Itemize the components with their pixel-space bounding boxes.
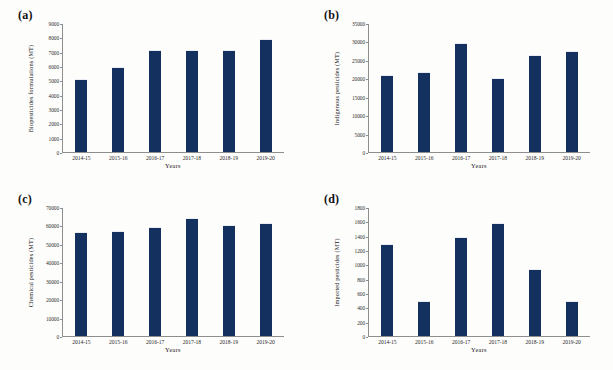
bar <box>566 301 578 336</box>
x-tick-label: 2016-17 <box>443 155 480 161</box>
y-tick-mark <box>366 79 368 80</box>
x-tick-label: 2019-20 <box>553 155 590 161</box>
bar <box>223 225 235 336</box>
bar <box>112 67 124 152</box>
y-tick-label: 10000 <box>46 316 59 322</box>
y-tick-label: 1000 <box>49 136 59 142</box>
panel-b: (b) Indigenous pesticides (MT) 050001000… <box>306 0 612 185</box>
bar <box>418 301 430 336</box>
y-tick-mark <box>366 251 368 252</box>
bars-d <box>369 208 590 336</box>
bar-slot <box>406 24 443 152</box>
y-tick-mark <box>366 294 368 295</box>
y-tick-mark <box>60 81 62 82</box>
figure-multipanel-bar-charts: (a) Biopesticides formulations (MT) 0100… <box>0 0 613 370</box>
x-tick-label: 2019-20 <box>247 339 284 345</box>
bar-slot <box>406 208 443 336</box>
y-axis-label-d: Imported pesticides (MT) <box>330 208 342 337</box>
y-tick-mark <box>60 319 62 320</box>
bar <box>381 244 393 336</box>
bar <box>492 223 504 336</box>
y-axis-label-c: Chemical pesticides (MT) <box>24 208 36 337</box>
y-tick-label: 50000 <box>46 242 59 248</box>
bar <box>75 232 87 336</box>
y-tick-label: 400 <box>357 305 365 311</box>
bar <box>186 218 198 336</box>
x-axis-label-b: Years <box>368 162 590 169</box>
bars-b <box>369 24 590 152</box>
y-tick-mark <box>60 124 62 125</box>
y-tick-label: 4000 <box>49 93 59 99</box>
y-tick-label: 3000 <box>49 107 59 113</box>
x-axis-line-a <box>62 152 284 153</box>
y-tick-label: 1000 <box>355 262 365 268</box>
y-tick-label: 20000 <box>352 76 365 82</box>
y-tick-mark <box>60 300 62 301</box>
y-tick-mark <box>60 208 62 209</box>
x-tick-label: 2014-15 <box>63 155 100 161</box>
y-tick-label: 15000 <box>352 95 365 101</box>
bar <box>260 223 272 336</box>
panel-tag-b: (b) <box>324 8 339 23</box>
y-tick-mark <box>60 53 62 54</box>
y-tick-label: 30000 <box>352 39 365 45</box>
x-axis-line-c <box>62 336 284 337</box>
bar-slot <box>173 208 210 336</box>
x-tick-label: 2018-19 <box>210 155 247 161</box>
bar <box>75 79 87 152</box>
x-tick-label: 2017-18 <box>479 339 516 345</box>
y-tick-label: 10000 <box>352 113 365 119</box>
bar-slot <box>137 208 174 336</box>
bar-slot <box>369 24 406 152</box>
bar-slot <box>63 208 100 336</box>
x-axis-line-b <box>368 152 590 153</box>
y-tick-mark <box>60 139 62 140</box>
y-tick-label: 7000 <box>49 50 59 56</box>
x-ticks-c: 2014-152015-162016-172017-182018-192019-… <box>63 339 284 345</box>
y-tick-mark <box>366 153 368 154</box>
x-tick-label: 2018-19 <box>516 339 553 345</box>
bar-slot <box>100 24 137 152</box>
y-tick-mark <box>60 245 62 246</box>
x-axis-label-c: Years <box>62 346 284 353</box>
bar-slot <box>137 24 174 152</box>
y-tick-mark <box>366 98 368 99</box>
y-tick-label: 20000 <box>46 297 59 303</box>
y-tick-label: 5000 <box>49 78 59 84</box>
y-tick-mark <box>366 24 368 25</box>
y-tick-mark <box>366 42 368 43</box>
bar <box>455 237 467 336</box>
plot-area-a: 0100020003000400050006000700080009000 20… <box>62 24 284 153</box>
bar <box>186 50 198 152</box>
x-tick-label: 2019-20 <box>247 155 284 161</box>
bar <box>455 43 467 152</box>
x-tick-label: 2017-18 <box>173 339 210 345</box>
y-tick-mark <box>366 61 368 62</box>
bar-slot <box>443 24 480 152</box>
x-tick-label: 2018-19 <box>210 339 247 345</box>
y-tick-mark <box>366 208 368 209</box>
y-tick-label: 1200 <box>355 248 365 254</box>
x-tick-label: 2014-15 <box>369 339 406 345</box>
y-tick-mark <box>60 67 62 68</box>
x-tick-label: 2017-18 <box>479 155 516 161</box>
x-tick-label: 2015-16 <box>406 155 443 161</box>
y-tick-mark <box>60 153 62 154</box>
x-axis-label-d: Years <box>368 346 590 353</box>
y-tick-mark <box>366 337 368 338</box>
bar <box>112 231 124 336</box>
x-tick-label: 2019-20 <box>553 339 590 345</box>
bar-slot <box>369 208 406 336</box>
y-tick-label: 8000 <box>49 35 59 41</box>
y-tick-label: 25000 <box>352 58 365 64</box>
bar-slot <box>479 208 516 336</box>
x-tick-label: 2018-19 <box>516 155 553 161</box>
y-tick-mark <box>60 263 62 264</box>
y-tick-mark <box>366 116 368 117</box>
bar <box>566 51 578 152</box>
y-axis-label-b: Indigenous pesticides (MT) <box>330 24 342 153</box>
panel-tag-c: (c) <box>18 192 32 207</box>
y-tick-label: 6000 <box>49 64 59 70</box>
y-tick-mark <box>366 280 368 281</box>
bar-slot <box>516 208 553 336</box>
